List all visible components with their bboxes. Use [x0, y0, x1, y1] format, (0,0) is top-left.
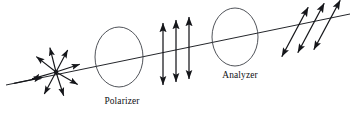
- vertical-polarization-arrows: [163, 17, 189, 85]
- polarization-diagram: Polarizer Analyzer: [0, 0, 356, 118]
- tilted-polarization-arrows: [282, 0, 340, 56]
- beam-center-dot: [54, 70, 58, 74]
- analyzer-element: Analyzer: [212, 8, 259, 80]
- tilted-polarization-arrow: [298, 3, 324, 52]
- polarizer-label: Polarizer: [104, 96, 140, 106]
- tilted-polarization-arrow: [314, 0, 340, 49]
- analyzer-disc: [212, 8, 258, 66]
- tilted-polarization-arrow: [282, 7, 308, 56]
- analyzer-label: Analyzer: [222, 70, 258, 80]
- incoming-beam-arrowhead: [14, 78, 42, 84]
- polarizer-element: Polarizer: [95, 27, 143, 106]
- polarizer-disc: [95, 27, 143, 87]
- diagram-canvas: Polarizer Analyzer: [0, 0, 356, 118]
